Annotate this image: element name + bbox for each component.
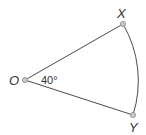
label-y: Y [129,120,139,135]
label-o: O [9,73,19,88]
label-x: X [116,6,127,21]
arc-xy [123,24,138,115]
sector-diagram: O X Y 40° [0,0,146,135]
angle-label: 40° [41,74,58,86]
radius-ox [25,24,123,80]
point-o [22,77,27,82]
point-y [130,112,135,117]
point-x [120,21,125,26]
